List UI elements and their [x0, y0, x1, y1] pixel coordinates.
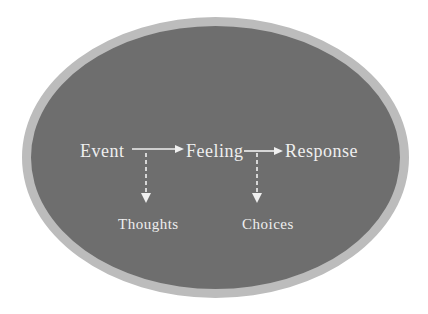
- event-to-feeling-arrow: [132, 145, 184, 153]
- node-event: Event: [80, 142, 125, 160]
- node-choices: Choices: [242, 217, 294, 232]
- down-to-thoughts-dashed-arrow: [141, 153, 151, 203]
- feeling-to-response-arrow: [244, 147, 283, 155]
- diagram-canvas: Event Feeling Response Thoughts Choices: [0, 0, 428, 314]
- node-feeling: Feeling: [186, 142, 244, 160]
- node-thoughts: Thoughts: [118, 217, 179, 232]
- node-response: Response: [285, 142, 358, 160]
- down-to-choices-dashed-arrow: [252, 153, 262, 203]
